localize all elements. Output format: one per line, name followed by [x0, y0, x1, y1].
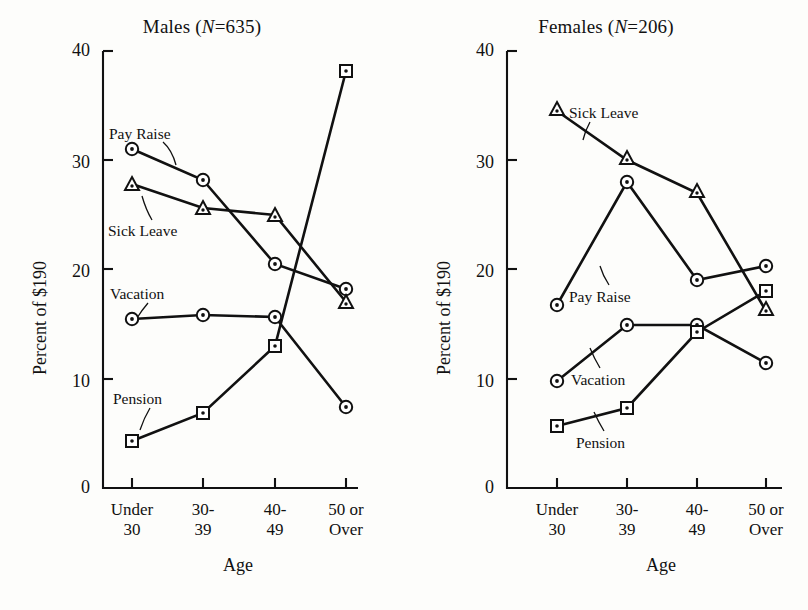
- leader-sick-leave-males: [142, 196, 152, 220]
- figure-two-panel-line-charts: Males (N=635) Percent of $190 40 30 20 1…: [0, 0, 808, 610]
- markers-sick-leave-males: [125, 177, 353, 308]
- markers-pay-raise-females: [551, 176, 772, 311]
- series-line-vacation-males: [132, 315, 346, 407]
- plot-area-females: [404, 0, 808, 610]
- markers-pay-raise-males: [126, 143, 352, 295]
- leader-pay-raise-males: [163, 142, 176, 165]
- panel-males: Males (N=635) Percent of $190 40 30 20 1…: [0, 0, 404, 610]
- plot-area-males: [0, 0, 404, 610]
- series-line-pension-females: [557, 291, 766, 426]
- markers-pension-males: [126, 65, 352, 447]
- series-line-sick-leave-females: [557, 111, 766, 311]
- series-line-pay-raise-females: [557, 182, 766, 305]
- markers-vacation-males: [126, 309, 352, 413]
- series-line-pay-raise-males: [132, 149, 346, 289]
- series-line-sick-leave-males: [132, 184, 346, 302]
- leader-pension-males: [140, 408, 150, 430]
- leader-pay-raise-females: [600, 266, 609, 285]
- markers-sick-leave-females: [550, 102, 773, 315]
- series-line-pension-males: [132, 71, 346, 441]
- leader-vacation-males: [137, 303, 148, 318]
- markers-vacation-females: [551, 319, 772, 387]
- panel-females: Females (N=206) Percent of $190 40 30 20…: [404, 0, 808, 610]
- series-line-vacation-females: [557, 325, 766, 381]
